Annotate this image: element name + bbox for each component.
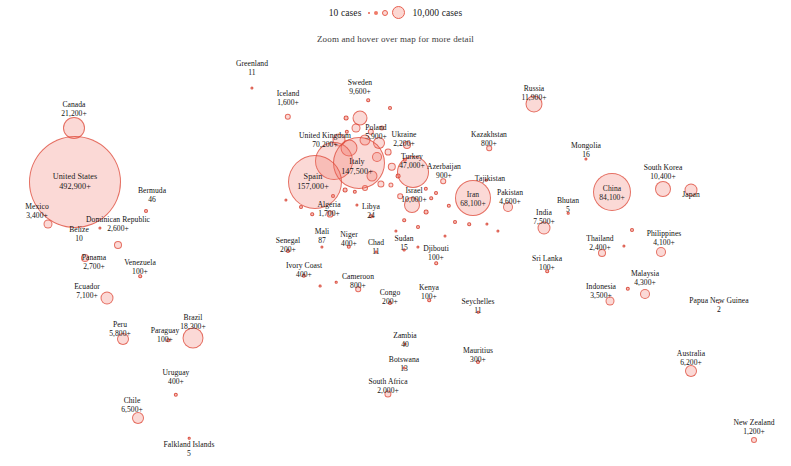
map-label: Sri Lanka100+ <box>532 254 562 273</box>
map-label: Mauritius300+ <box>463 346 493 365</box>
map-label: Zambia40 <box>393 331 417 350</box>
map-label: South Korea10,400+ <box>644 163 683 182</box>
map-bubble-unlabeled[interactable] <box>626 287 630 291</box>
map-label: Bhutan5 <box>557 196 579 215</box>
map-label: Chad11 <box>368 238 384 257</box>
map-label: Djibouti100+ <box>423 244 449 263</box>
map-bubble-unlabeled[interactable] <box>485 222 488 225</box>
map-label-value: 11 <box>462 306 495 315</box>
map-label-country: South Africa <box>368 377 407 386</box>
map-label: Congo200+ <box>380 288 401 307</box>
map-label-country: Zambia <box>393 331 417 340</box>
map-canvas[interactable]: Canada21,200+United States492,900+Bermud… <box>0 0 791 466</box>
map-bubble-unlabeled[interactable] <box>388 182 393 187</box>
map-label: Panama2,700+ <box>82 253 106 272</box>
map-bubble[interactable] <box>174 393 178 397</box>
map-bubble-unlabeled[interactable] <box>416 245 419 248</box>
map-label-value: 11 <box>236 68 268 77</box>
map-label: Dominican Republic2,600+ <box>86 215 150 234</box>
map-bubble[interactable] <box>655 181 671 197</box>
map-label-country: Mongolia <box>571 141 601 150</box>
map-bubble-unlabeled[interactable] <box>429 196 433 200</box>
map-label-country: Sudan <box>394 234 413 243</box>
map-bubble-unlabeled[interactable] <box>385 149 392 156</box>
map-label-country: Mexico <box>25 202 49 211</box>
map-label-country: Greenland <box>236 59 268 68</box>
map-label-value: 3,400+ <box>25 211 49 220</box>
map-bubble[interactable] <box>101 292 114 305</box>
map-bubble-unlabeled[interactable] <box>416 225 420 229</box>
map-bubble[interactable] <box>640 289 650 299</box>
map-bubble[interactable] <box>44 220 53 229</box>
map-label: Botswana13 <box>389 355 419 374</box>
map-label-country: India <box>533 208 555 217</box>
map-label-value: 46 <box>138 195 166 204</box>
map-label-value: 4,100+ <box>647 238 682 247</box>
map-label-country: Botswana <box>389 355 419 364</box>
map-bubble-unlabeled[interactable] <box>344 116 349 121</box>
map-label-value: 13 <box>389 364 419 373</box>
map-bubble[interactable] <box>250 86 253 89</box>
map-bubble-unlabeled[interactable] <box>630 228 634 232</box>
map-bubble-unlabeled[interactable] <box>343 188 348 193</box>
map-bubble-unlabeled[interactable] <box>467 222 471 226</box>
map-bubble-unlabeled[interactable] <box>319 285 322 288</box>
map-label-country: Ivory Coast <box>286 261 322 270</box>
map-bubble-unlabeled[interactable] <box>394 229 397 232</box>
map-bubble-unlabeled[interactable] <box>284 198 287 201</box>
map-label-country: United States <box>53 172 98 182</box>
map-label: Mexico3,400+ <box>25 202 49 221</box>
map-label: Kenya100+ <box>419 283 439 302</box>
map-bubble[interactable] <box>320 245 323 248</box>
map-label-value: 5 <box>164 449 215 458</box>
map-label-value: 800+ <box>471 139 507 148</box>
map-label: Sweden9,600+ <box>348 78 372 97</box>
map-bubble[interactable] <box>285 114 291 120</box>
map-label-value: 100+ <box>124 267 156 276</box>
map-label-value: 24 <box>362 211 380 220</box>
map-bubble[interactable] <box>751 437 757 443</box>
map-bubble-unlabeled[interactable] <box>388 106 392 110</box>
map-label: Iran68,100+ <box>460 190 486 209</box>
map-bubble-unlabeled[interactable] <box>496 229 499 232</box>
map-bubble-unlabeled[interactable] <box>310 212 314 216</box>
map-label: Australia6,200+ <box>677 349 705 368</box>
map-label: Greenland11 <box>236 59 268 78</box>
map-label-value: 40 <box>393 340 417 349</box>
map-label-country: Iceland <box>277 89 300 98</box>
map-bubble-unlabeled[interactable] <box>444 235 447 238</box>
map-label-country: Libya <box>362 202 380 211</box>
map-label: Pakistan4,600+ <box>497 188 523 207</box>
map-bubble-unlabeled[interactable] <box>366 98 370 102</box>
map-bubble-unlabeled[interactable] <box>424 210 429 215</box>
map-bubble-unlabeled[interactable] <box>434 191 438 195</box>
map-label: Philippines4,100+ <box>647 229 682 248</box>
map-label-value: 1,700+ <box>317 209 340 218</box>
map-bubble-unlabeled[interactable] <box>447 204 451 208</box>
map-label-country: Philippines <box>647 229 682 238</box>
map-bubble[interactable] <box>656 247 666 257</box>
map-label-country: Russia <box>521 84 546 93</box>
map-bubble-unlabeled[interactable] <box>355 203 358 206</box>
map-label-value: 200+ <box>276 245 300 254</box>
map-bubble[interactable] <box>144 209 148 213</box>
map-bubble-unlabeled[interactable] <box>622 244 625 247</box>
map-bubble[interactable] <box>188 437 191 440</box>
map-label-country: Sri Lanka <box>532 254 562 263</box>
map-label: Libya24 <box>362 202 380 221</box>
map-label-country: Peru <box>109 320 131 329</box>
map-label-country: Australia <box>677 349 705 358</box>
map-label: Niger400+ <box>340 230 358 249</box>
map-label-value: 21,200+ <box>61 109 87 118</box>
map-bubble-unlabeled[interactable] <box>335 281 338 284</box>
map-bubble-unlabeled[interactable] <box>402 218 406 222</box>
map-bubble-unlabeled[interactable] <box>453 220 457 224</box>
map-label-country: Sweden <box>348 78 372 87</box>
map-bubble[interactable] <box>114 241 122 249</box>
map-bubble-unlabeled[interactable] <box>377 180 384 187</box>
map-bubble-unlabeled[interactable] <box>388 163 396 171</box>
map-label-country: Algeria <box>317 200 340 209</box>
map-label-value: 18,300+ <box>180 322 206 331</box>
map-bubble-unlabeled[interactable] <box>353 190 357 194</box>
map-label-value: 5,800+ <box>109 329 131 338</box>
